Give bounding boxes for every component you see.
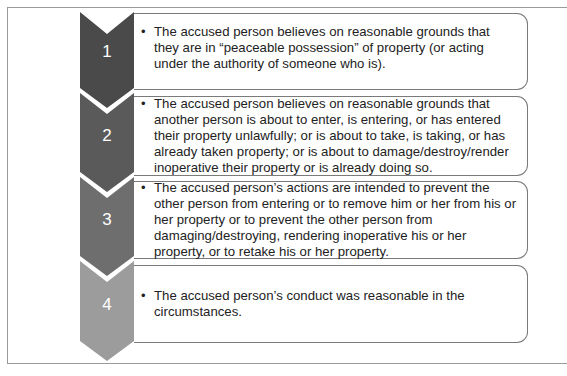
step-text-4: The accused person’s conduct was reasona… xyxy=(154,288,467,320)
bullet-icon: • xyxy=(141,96,154,112)
bullet-icon: • xyxy=(141,180,154,196)
step-number-3: 3 xyxy=(80,210,134,230)
bullet-icon: • xyxy=(141,288,154,304)
step-text-2: The accused person believes on reasonabl… xyxy=(154,96,517,176)
step-box-1: • The accused person believes on reasona… xyxy=(134,13,528,90)
step-box-2: • The accused person believes on reasona… xyxy=(134,96,528,176)
step-box-4: • The accused person’s conduct was reaso… xyxy=(134,265,528,343)
step-text-3: The accused person’s actions are intende… xyxy=(154,180,517,260)
step-number-4: 4 xyxy=(80,295,134,315)
bullet-icon: • xyxy=(141,24,154,40)
step-text-1: The accused person believes on reasonabl… xyxy=(154,24,517,72)
step-number-2: 2 xyxy=(80,126,134,146)
step-box-3: • The accused person’s actions are inten… xyxy=(134,181,528,259)
step-number-1: 1 xyxy=(80,42,134,62)
